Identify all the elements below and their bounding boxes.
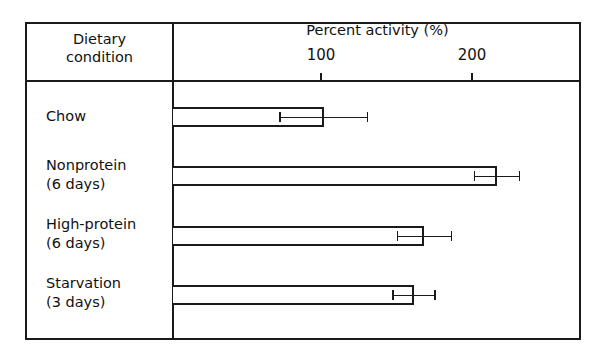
tick-label-100: 100 bbox=[307, 46, 336, 64]
label-line: Nonprotein bbox=[46, 156, 126, 175]
tick-mark-200 bbox=[471, 73, 473, 81]
error-cap-low bbox=[474, 171, 476, 181]
error-bar-chow bbox=[280, 117, 367, 119]
label-line: Starvation bbox=[46, 274, 121, 293]
error-cap-high bbox=[451, 231, 453, 241]
error-cap-low bbox=[279, 112, 281, 122]
header-line: Dietary bbox=[27, 30, 172, 48]
error-cap-high bbox=[434, 290, 436, 300]
label-line: (6 days) bbox=[46, 175, 126, 194]
label-line: (3 days) bbox=[46, 293, 121, 312]
error-cap-low bbox=[397, 231, 399, 241]
bar-nonprotein bbox=[173, 166, 497, 186]
header-divider bbox=[25, 80, 581, 82]
tick-label-200: 200 bbox=[458, 46, 487, 64]
label-line: (6 days) bbox=[46, 234, 136, 253]
error-cap-high bbox=[519, 171, 521, 181]
error-bar-nonprotein bbox=[474, 176, 519, 178]
column-header-dietary-condition: Dietary condition bbox=[27, 30, 172, 66]
tick-mark-100 bbox=[320, 73, 322, 81]
error-bar-high-protein bbox=[397, 236, 451, 238]
category-label-chow: Chow bbox=[46, 107, 86, 126]
label-line: Chow bbox=[46, 107, 86, 126]
bar-starvation bbox=[173, 285, 414, 305]
category-label-starvation: Starvation (3 days) bbox=[46, 274, 121, 312]
axis-title: Percent activity (%) bbox=[174, 22, 581, 38]
category-label-nonprotein: Nonprotein (6 days) bbox=[46, 156, 126, 194]
category-label-high-protein: High-protein (6 days) bbox=[46, 215, 136, 253]
error-cap-low bbox=[392, 290, 394, 300]
error-bar-starvation bbox=[393, 295, 435, 297]
error-cap-high bbox=[367, 112, 369, 122]
header-line: condition bbox=[27, 48, 172, 66]
label-line: High-protein bbox=[46, 215, 136, 234]
bar-high-protein bbox=[173, 226, 424, 246]
